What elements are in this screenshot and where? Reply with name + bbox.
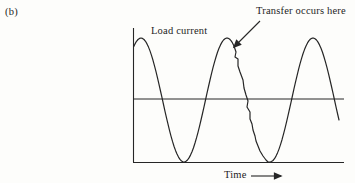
transfer-annotation-label: Transfer occurs here <box>256 5 346 17</box>
load-current-curve <box>134 38 340 162</box>
waveform-figure: (b) Load current Transfer occurs here Ti… <box>0 0 355 183</box>
figure-panel-label: (b) <box>5 6 18 18</box>
load-current-label: Load current <box>151 25 207 37</box>
annotation-arrow <box>234 21 260 47</box>
time-axis-label: Time <box>224 169 247 181</box>
